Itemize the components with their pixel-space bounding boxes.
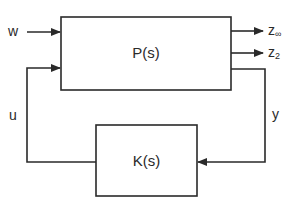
y-label: y [272, 107, 279, 121]
z-inf-label: z∞ [268, 23, 281, 41]
z-2-label: z2 [268, 45, 280, 63]
plant-label: P(s) [61, 45, 231, 60]
controller-label: K(s) [96, 153, 197, 168]
block-diagram-canvas [0, 0, 292, 206]
u-label: u [9, 108, 17, 122]
w-label: w [8, 24, 18, 38]
